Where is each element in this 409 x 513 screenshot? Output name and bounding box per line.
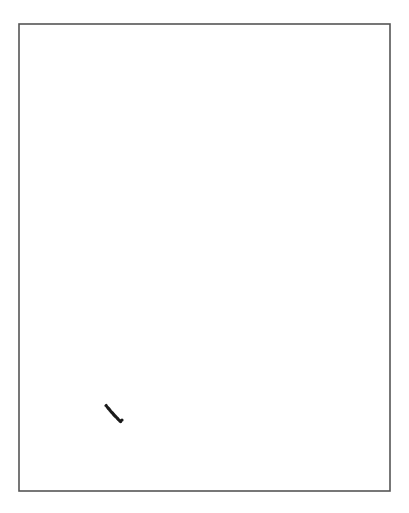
frame-border bbox=[19, 24, 390, 491]
figure-canvas bbox=[0, 0, 409, 513]
stroke-end-dot bbox=[120, 418, 123, 421]
hand-drawn-ellipse bbox=[105, 405, 121, 422]
